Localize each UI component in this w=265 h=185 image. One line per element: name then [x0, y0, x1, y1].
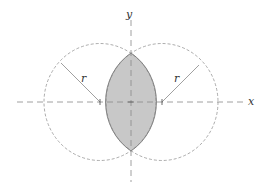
right-radius-line [162, 65, 199, 102]
overlapping-circles-diagram [0, 0, 265, 185]
y-axis-label: y [126, 9, 132, 20]
x-axis-label: x [248, 96, 254, 107]
right-radius-label: r [174, 73, 179, 84]
left-radius-label: r [81, 73, 86, 84]
